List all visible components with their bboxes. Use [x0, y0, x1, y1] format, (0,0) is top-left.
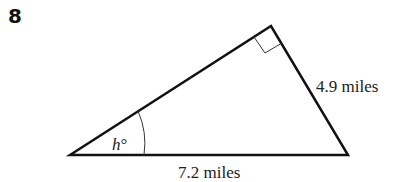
angle-label: h° [112, 135, 127, 154]
triangle-diagram: h° 4.9 miles 7.2 miles [0, 0, 409, 182]
hypotenuse-label: 7.2 miles [178, 163, 240, 182]
right-leg-label: 4.9 miles [316, 77, 378, 96]
angle-arc [138, 111, 145, 155]
